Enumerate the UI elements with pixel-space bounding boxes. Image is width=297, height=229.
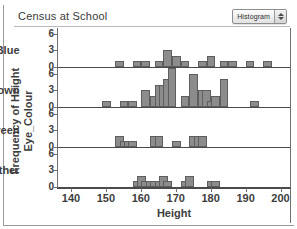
x-axis-label: Height bbox=[57, 207, 291, 219]
histogram-bar[interactable] bbox=[181, 96, 190, 107]
bar-series bbox=[58, 28, 291, 67]
panel-baseline bbox=[58, 107, 291, 108]
x-axis: Height 140150160170180190200 bbox=[57, 188, 291, 222]
histogram-bar[interactable] bbox=[172, 56, 181, 67]
x-tick-label: 140 bbox=[62, 192, 80, 204]
page-title: Census at School bbox=[18, 10, 107, 22]
facet-panel-brown: Brown036 bbox=[35, 68, 291, 108]
histogram-chart: Frequency of Height Eye_Colour Other036G… bbox=[8, 28, 291, 223]
facet-panel-blue: Blue036 bbox=[35, 28, 291, 68]
y-axis-ticks: 036 bbox=[35, 28, 57, 68]
panel-baseline bbox=[58, 147, 291, 148]
plot-type-stepper[interactable] bbox=[274, 10, 286, 23]
x-tick-label: 180 bbox=[201, 192, 219, 204]
facet-panel-other: Other036 bbox=[35, 148, 291, 188]
x-tick-label: 200 bbox=[271, 192, 289, 204]
y-axis-ticks: 036 bbox=[35, 68, 57, 108]
plot-area bbox=[57, 28, 291, 68]
plot-area bbox=[57, 148, 291, 188]
histogram-bar[interactable] bbox=[141, 90, 150, 107]
histogram-bar[interactable] bbox=[207, 56, 216, 67]
histogram-bar[interactable] bbox=[198, 136, 207, 147]
plot-type-dropdown[interactable]: Histogram bbox=[232, 9, 287, 24]
y-axis-ticks: 036 bbox=[35, 148, 57, 188]
facet-panel-label: Green bbox=[0, 124, 35, 136]
x-tick-label: 150 bbox=[97, 192, 115, 204]
histogram-bar[interactable] bbox=[185, 176, 194, 187]
triangle-up-icon[interactable] bbox=[278, 13, 284, 16]
histogram-bar[interactable] bbox=[155, 136, 164, 147]
facet-panels: Other036Green036Brown036Blue036 Height 1… bbox=[35, 28, 291, 223]
facet-panel-label: Brown bbox=[0, 84, 35, 96]
facet-panel-label: Blue bbox=[0, 44, 35, 56]
x-tick-label: 160 bbox=[132, 192, 150, 204]
facet-panel-green: Green036 bbox=[35, 108, 291, 148]
title-bar: Census at School Histogram bbox=[8, 9, 291, 26]
histogram-bar[interactable] bbox=[168, 68, 177, 107]
plot-area bbox=[57, 108, 291, 148]
x-axis-line bbox=[57, 188, 291, 189]
histogram-bar[interactable] bbox=[189, 74, 198, 107]
y-axis-ticks: 036 bbox=[35, 108, 57, 148]
bar-series bbox=[58, 148, 291, 187]
histogram-bar[interactable] bbox=[220, 79, 229, 107]
panel-baseline bbox=[58, 67, 291, 68]
facet-panel-label: Other bbox=[0, 164, 35, 176]
plot-area bbox=[57, 68, 291, 108]
census-at-school-window: Census at School Histogram Frequency of … bbox=[0, 0, 297, 229]
x-tick-label: 170 bbox=[167, 192, 185, 204]
facet-axis-label-text: Eye_Colour bbox=[22, 90, 34, 151]
bar-series bbox=[58, 108, 291, 147]
plot-type-label: Histogram bbox=[233, 10, 274, 23]
histogram-bar[interactable] bbox=[211, 96, 220, 107]
bar-series bbox=[58, 68, 291, 107]
x-tick-label: 190 bbox=[236, 192, 254, 204]
title-divider bbox=[14, 26, 290, 27]
histogram-bar[interactable] bbox=[163, 50, 172, 67]
triangle-down-icon[interactable] bbox=[278, 17, 284, 20]
